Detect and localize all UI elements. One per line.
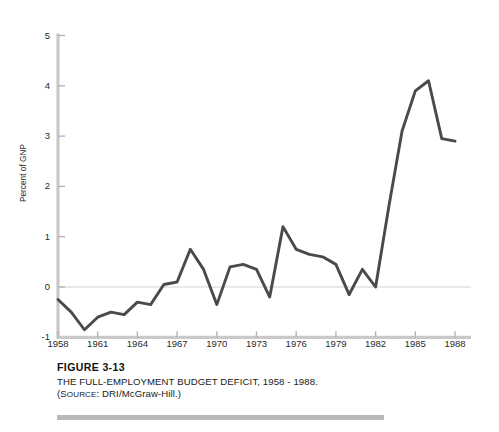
- y-axis-tick-label: 0: [28, 281, 50, 292]
- y-axis-tick-label: 1: [28, 231, 50, 242]
- figure-source: (SOURCE: DRI/McGraw-Hill.): [57, 388, 477, 399]
- y-axis-tick-label: 4: [28, 80, 50, 91]
- source-prefix: (S: [57, 388, 67, 399]
- y-axis-tick-label: 3: [28, 130, 50, 141]
- x-axis-tick-label: 1982: [356, 338, 396, 349]
- x-axis-tick-label: 1970: [197, 338, 237, 349]
- source-rest: : DRI/McGraw-Hill.): [97, 388, 182, 399]
- x-axis-tick-label: 1985: [395, 338, 435, 349]
- figure-caption: FIGURE 3-13 THE FULL-EMPLOYMENT BUDGET D…: [57, 361, 477, 399]
- x-axis-tick-label: 1976: [276, 338, 316, 349]
- x-axis-tick-label: 1988: [435, 338, 475, 349]
- x-axis-tick-label: 1973: [237, 338, 277, 349]
- source-smallcaps: OURCE: [67, 390, 97, 399]
- line-chart-plot: [0, 0, 499, 355]
- figure-title: THE FULL-EMPLOYMENT BUDGET DEFICIT, 1958…: [57, 376, 477, 387]
- figure-page: Percent of GNP -101234519581961196419671…: [0, 0, 499, 432]
- x-axis-tick-label: 1964: [117, 338, 157, 349]
- y-axis-tick-label: 5: [28, 30, 50, 41]
- x-axis-tick-label: 1961: [78, 338, 118, 349]
- x-axis-tick-label: 1979: [316, 338, 356, 349]
- x-axis-tick-label: 1958: [38, 338, 78, 349]
- y-axis-tick-label: 2: [28, 180, 50, 191]
- bottom-divider-rule: [57, 415, 384, 420]
- x-axis-tick-label: 1967: [157, 338, 197, 349]
- chart-area: Percent of GNP -101234519581961196419671…: [0, 0, 499, 355]
- figure-number: FIGURE 3-13: [57, 361, 477, 373]
